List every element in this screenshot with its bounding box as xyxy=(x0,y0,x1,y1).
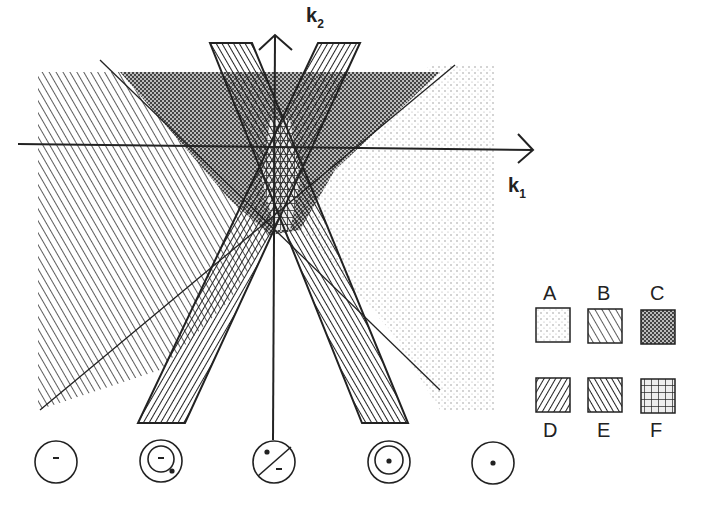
k1-arrowhead-icon xyxy=(518,134,533,163)
legend-swatch-e xyxy=(588,378,622,412)
k2-label: k2 xyxy=(306,4,324,31)
circle-icons xyxy=(35,440,514,484)
legend-swatch-d xyxy=(536,378,570,412)
legend: A B C D E F xyxy=(536,282,675,441)
circle-icon-4 xyxy=(368,441,410,483)
legend-label-a: A xyxy=(543,282,557,304)
legend-swatch-a xyxy=(536,308,570,342)
legend-label-c: C xyxy=(650,282,664,304)
legend-swatch-b xyxy=(588,309,622,343)
k1-label: k1 xyxy=(508,174,526,201)
legend-label-e: E xyxy=(597,419,610,441)
circle-icon-5 xyxy=(472,442,514,484)
circle-icon-2 xyxy=(140,440,182,482)
circle-icon-3 xyxy=(253,441,295,483)
legend-label-d: D xyxy=(543,419,557,441)
legend-swatch-f xyxy=(641,379,675,413)
legend-swatch-c xyxy=(641,310,675,344)
legend-label-b: B xyxy=(597,282,610,304)
circle-icon-1 xyxy=(35,441,77,483)
legend-label-f: F xyxy=(650,419,662,441)
phase-diagram: k2 k1 A B C D E F xyxy=(0,0,715,513)
